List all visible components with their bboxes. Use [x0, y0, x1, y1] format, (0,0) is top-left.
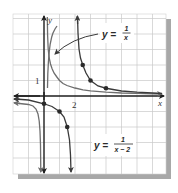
tick-label-1: 1: [35, 76, 40, 86]
function-graph: y x 2 1 y = 1 x y = 1 x − 2: [0, 0, 178, 193]
svg-text:y =: y =: [93, 140, 108, 151]
point-4-half: [104, 86, 109, 91]
point-1-neg-1: [57, 109, 62, 114]
point-0-neg-half: [42, 101, 47, 106]
y-axis-label: y: [47, 15, 52, 25]
point-1.5-neg-2: [65, 125, 70, 130]
curve-1-over-x-left-arrow: [14, 103, 20, 104]
equation-label-1-over-x-minus-2: y = 1 x − 2: [92, 134, 136, 156]
svg-text:1: 1: [125, 25, 129, 32]
tick-label-2: 2: [72, 100, 77, 110]
point-3-1: [88, 78, 93, 83]
svg-text:y =: y =: [101, 29, 116, 40]
svg-text:1: 1: [121, 136, 125, 143]
x-axis-label: x: [157, 98, 162, 108]
svg-text:x − 2: x − 2: [114, 146, 131, 153]
point-2.5-2: [80, 63, 85, 68]
equation-label-1-over-x: y = 1 x: [100, 23, 134, 43]
